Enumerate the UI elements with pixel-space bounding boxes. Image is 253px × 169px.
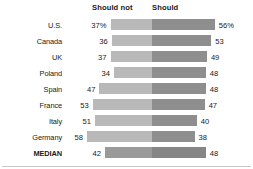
value-label-should: 48 (210, 69, 218, 78)
value-label-should-not: 42 (93, 149, 101, 158)
bar-segment-should (152, 51, 207, 62)
bar-segment-should (152, 35, 211, 46)
bar-segment-should (152, 99, 205, 110)
value-label-should-not: 51 (82, 117, 90, 126)
value-label-should-not: 34 (101, 69, 109, 78)
bar-segment-should (152, 115, 197, 126)
bar-group (0, 19, 253, 30)
value-label-should: 56% (219, 21, 234, 30)
diverging-bar-chart: Should not Should U.S.37%56%Canada3653UK… (0, 0, 253, 169)
bar-segment-should-not (114, 67, 152, 78)
chart-row: Canada3653 (0, 33, 253, 49)
bar-segment-should (152, 19, 215, 30)
value-label-should-not: 53 (80, 101, 88, 110)
legend-label-should-not: Should not (92, 3, 133, 12)
value-label-should-not: 58 (75, 133, 83, 142)
bar-segment-should (152, 131, 195, 142)
value-label-should: 48 (210, 85, 218, 94)
value-label-should: 48 (210, 149, 218, 158)
bar-group (0, 131, 253, 142)
bar-segment-should-not (87, 131, 152, 142)
chart-row: Poland3448 (0, 65, 253, 81)
chart-row: Italy5140 (0, 113, 253, 129)
value-label-should: 49 (211, 53, 219, 62)
value-label-should-not: 47 (87, 85, 95, 94)
chart-row: France5347 (0, 97, 253, 113)
chart-row: UK3749 (0, 49, 253, 65)
bar-segment-should (152, 147, 206, 158)
chart-row: Germany5838 (0, 129, 253, 145)
bar-segment-should-not (95, 115, 152, 126)
bar-segment-should-not (105, 147, 152, 158)
value-label-should: 40 (201, 117, 209, 126)
value-label-should: 38 (199, 133, 207, 142)
bar-segment-should-not (99, 83, 152, 94)
chart-legend: Should not Should (0, 3, 253, 16)
chart-row: Spain4748 (0, 81, 253, 97)
legend-label-should: Should (152, 3, 178, 12)
chart-row: U.S.37%56% (0, 17, 253, 33)
bar-segment-should-not (111, 19, 152, 30)
bar-segment-should (152, 83, 206, 94)
value-label-should: 47 (209, 101, 217, 110)
bar-segment-should-not (93, 99, 152, 110)
value-label-should-not: 37 (98, 53, 106, 62)
bar-group (0, 115, 253, 126)
value-label-should-not: 36 (99, 37, 107, 46)
value-label-should: 53 (215, 37, 223, 46)
bar-segment-should (152, 67, 206, 78)
chart-plot-area: U.S.37%56%Canada3653UK3749Poland3448Spai… (0, 17, 253, 162)
value-label-should-not: 37% (91, 21, 106, 30)
bar-segment-should-not (112, 35, 152, 46)
bottom-divider (2, 166, 251, 167)
chart-row: MEDIAN4248 (0, 145, 253, 161)
bar-segment-should-not (111, 51, 152, 62)
